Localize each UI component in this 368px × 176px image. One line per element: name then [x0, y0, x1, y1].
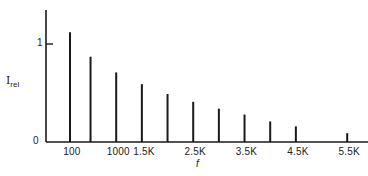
- y-axis-label-sub: rel: [10, 80, 19, 89]
- x-tick-label: 5.5K: [339, 146, 360, 157]
- x-tick-label: 4.5K: [287, 146, 308, 157]
- y-axis-label: Irel: [6, 74, 19, 89]
- x-tick-label: 2.5K: [185, 146, 206, 157]
- x-tick-label: 1.5K: [133, 146, 154, 157]
- x-tick-label: 3.5K: [236, 146, 257, 157]
- y-tick-label: 0: [33, 135, 39, 146]
- y-tick-label: 1: [37, 37, 43, 48]
- x-tick-label: 1000: [107, 146, 130, 157]
- spectrum-chart: Irel f 01 10010001.5K2.5K3.5K4.5K5.5K6K: [0, 0, 368, 176]
- x-tick-label: 100: [63, 146, 80, 157]
- x-axis-label: f: [196, 158, 199, 169]
